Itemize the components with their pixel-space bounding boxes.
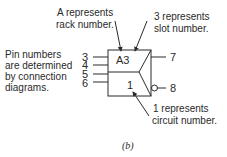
logic-symbol-diagram: A represents rack number. 3 represents s… xyxy=(0,0,227,157)
slot-annotation-line1: 3 represents xyxy=(154,11,210,22)
circuit-annotation-line2: circuit number. xyxy=(152,115,217,126)
rack-leader-arrow xyxy=(115,21,121,51)
pin-annotation-line1: Pin numbers xyxy=(5,49,61,60)
inversion-bubble-icon xyxy=(152,85,158,91)
pin-label-8: 8 xyxy=(170,82,176,94)
pin-annotation-line4: diagrams. xyxy=(5,82,49,93)
circuit-annotation: 1 represents circuit number. xyxy=(133,92,217,126)
slot-annotation: 3 represents slot number. xyxy=(135,11,210,51)
pin-annotation: Pin numbers are determined by connection… xyxy=(5,49,72,93)
chevron-divider xyxy=(139,50,151,96)
pin-label-7: 7 xyxy=(170,51,176,63)
pin-label-6: 6 xyxy=(82,77,88,89)
rack-annotation: A represents rack number. xyxy=(56,7,121,51)
pin-annotation-line3: by connection xyxy=(5,71,67,82)
output-pins: 7 8 xyxy=(151,51,176,94)
pin-annotation-line2: are determined xyxy=(5,60,72,71)
slot-annotation-line2: slot number. xyxy=(154,23,208,34)
symbol-top-label: A3 xyxy=(116,54,129,66)
symbol-bottom-label: 1 xyxy=(127,79,133,91)
figure-caption: (b) xyxy=(122,140,134,152)
input-pins: 3 4 5 6 xyxy=(82,51,108,89)
gate-symbol: A3 1 xyxy=(108,50,151,96)
rack-annotation-line1: A represents xyxy=(57,7,113,18)
rack-annotation-line2: rack number. xyxy=(56,19,114,30)
circuit-annotation-line1: 1 represents xyxy=(153,103,209,114)
slot-leader-arrow xyxy=(135,21,147,51)
